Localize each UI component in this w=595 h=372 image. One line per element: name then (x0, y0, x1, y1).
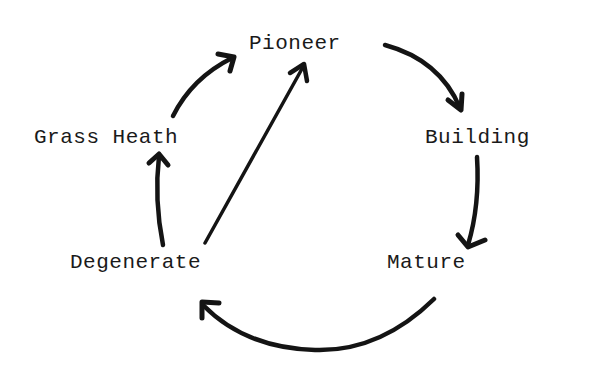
arrows-layer (0, 0, 595, 372)
arrow-degenerate-to-grass-heath (149, 154, 168, 245)
node-building: Building (425, 127, 530, 148)
node-mature: Mature (387, 252, 466, 273)
arrow-building-to-mature (458, 157, 485, 247)
arrow-pioneer-to-building (385, 45, 462, 110)
arrow-grass-heath-to-pioneer (173, 54, 234, 116)
node-pioneer: Pioneer (249, 33, 341, 54)
cycle-diagram: Pioneer Building Mature Degenerate Grass… (0, 0, 595, 372)
arrow-degenerate-to-pioneer (205, 64, 307, 243)
node-degenerate: Degenerate (70, 252, 201, 273)
arrow-mature-to-degenerate (202, 299, 434, 350)
node-grass-heath: Grass Heath (34, 127, 178, 148)
